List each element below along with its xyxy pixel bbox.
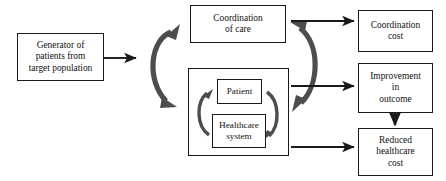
node-improvement-in-outcome-label: Improvement in outcome: [359, 71, 432, 105]
node-reduced-healthcare-cost-label: Reduced healthcare cost: [359, 135, 432, 169]
connector-hub-bidirectional-left: [153, 24, 180, 108]
node-coordination-of-care-label: Coordination of care: [191, 13, 285, 36]
node-generator-of-patients: Generator of patients from target popula…: [17, 33, 104, 81]
connector-hub-bidirectional-right: [290, 21, 315, 112]
node-patient: Patient: [217, 79, 262, 104]
node-improvement-in-outcome: Improvement in outcome: [358, 63, 433, 113]
node-healthcare-system: Healthcare system: [212, 114, 266, 148]
node-generator-label: Generator of patients from target popula…: [18, 40, 103, 74]
node-healthcare-system-label: Healthcare system: [213, 120, 265, 142]
node-patient-label: Patient: [218, 86, 261, 97]
node-coordination-cost: Coordination cost: [358, 10, 433, 52]
diagram-canvas: Generator of patients from target popula…: [0, 0, 446, 181]
node-coordination-of-care: Coordination of care: [190, 5, 286, 43]
node-coordination-cost-label: Coordination cost: [359, 20, 432, 43]
node-reduced-healthcare-cost: Reduced healthcare cost: [358, 128, 433, 176]
